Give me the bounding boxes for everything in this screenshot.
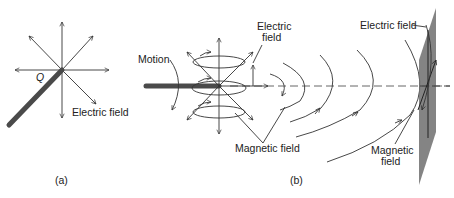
magnetic-field-label-b: Magnetic field — [235, 142, 300, 154]
panel-a: Q Electric field (a) — [9, 22, 129, 186]
plane-magnetic-field-label-2: field — [381, 155, 400, 167]
caption-a: (a) — [55, 174, 68, 186]
electric-field-label-a: Electric field — [72, 106, 129, 118]
charge-label: Q — [36, 71, 44, 83]
motion-label: Motion — [138, 53, 170, 65]
electric-field-label-b-2: field — [262, 31, 281, 43]
caption-b: (b) — [290, 174, 303, 186]
electromagnetic-wave-diagram: Q Electric field (a) Motion — [0, 0, 454, 198]
plane-electric-field-label: Electric field — [360, 19, 417, 31]
panel-b: Motion — [138, 8, 450, 186]
